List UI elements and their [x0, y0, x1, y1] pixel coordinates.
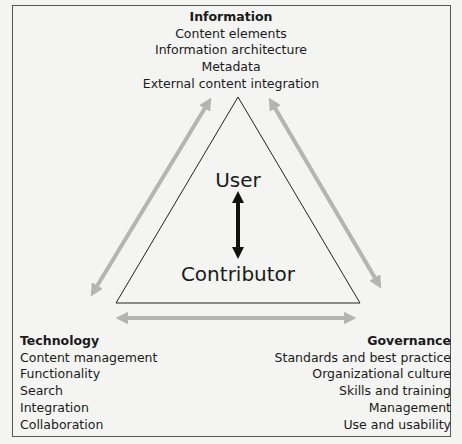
- governance-item: Skills and training: [275, 383, 451, 400]
- technology-title: Technology: [20, 333, 157, 350]
- technology-item: Functionality: [20, 366, 157, 383]
- information-item: Information architecture: [0, 42, 462, 59]
- governance-item: Organizational culture: [275, 366, 451, 383]
- governance-item: Standards and best practice: [275, 350, 451, 367]
- governance-item: Management: [275, 400, 451, 417]
- information-title: Information: [0, 9, 462, 26]
- technology-item: Integration: [20, 400, 157, 417]
- governance-block: Governance Standards and best practice O…: [275, 333, 451, 433]
- technology-item: Collaboration: [20, 417, 157, 434]
- user-label: User: [138, 168, 338, 192]
- technology-block: Technology Content management Functional…: [20, 333, 157, 433]
- information-item: External content integration: [0, 76, 462, 93]
- technology-item: Content management: [20, 350, 157, 367]
- technology-item: Search: [20, 383, 157, 400]
- information-block: Information Content elements Information…: [0, 9, 462, 93]
- governance-item: Use and usability: [275, 417, 451, 434]
- information-item: Content elements: [0, 26, 462, 43]
- contributor-label: Contributor: [138, 262, 338, 286]
- information-item: Metadata: [0, 59, 462, 76]
- governance-title: Governance: [275, 333, 451, 350]
- arrow-information-governance: [272, 103, 378, 283]
